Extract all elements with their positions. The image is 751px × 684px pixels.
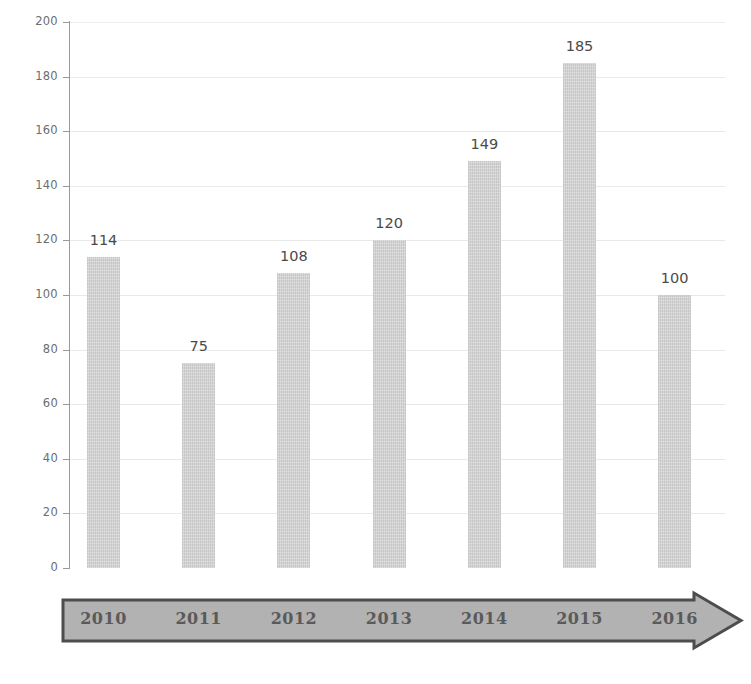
- y-axis-tick-label: 80: [22, 344, 58, 355]
- y-axis-tick-label-wrap: 60: [18, 398, 58, 410]
- y-axis-tick-label-wrap: 120: [18, 234, 58, 246]
- y-axis-tick-label-wrap: 200: [18, 16, 58, 28]
- gridline: [70, 22, 725, 23]
- bar-chart: 020406080100120140160180200 114751081201…: [0, 0, 751, 684]
- y-axis-tick: [63, 513, 70, 514]
- x-axis-arrow: 2010201120122013201420152016: [60, 590, 744, 652]
- y-axis-tick-label: 0: [22, 562, 58, 573]
- y-axis-tick-label-wrap: 0: [18, 562, 58, 574]
- y-axis-tick-label-wrap: 20: [18, 507, 58, 519]
- y-axis-tick: [63, 77, 70, 78]
- x-axis-category-label: 2012: [259, 611, 329, 627]
- bar-value-label: 185: [550, 39, 610, 54]
- bar: [658, 295, 691, 568]
- x-axis-category-label: 2014: [449, 611, 519, 627]
- y-axis-tick: [63, 240, 70, 241]
- y-axis-tick-label: 40: [22, 453, 58, 464]
- y-axis-tick-label-wrap: 160: [18, 125, 58, 137]
- y-axis-tick-label: 20: [22, 507, 58, 518]
- y-axis-tick-label-wrap: 100: [18, 289, 58, 301]
- y-axis-tick-label-wrap: 180: [18, 71, 58, 83]
- x-axis-category-label: 2011: [164, 611, 234, 627]
- bar-value-label: 114: [74, 233, 134, 248]
- x-axis-category-label: 2016: [640, 611, 710, 627]
- y-axis-tick: [63, 568, 70, 569]
- bar: [182, 363, 215, 568]
- y-axis-tick: [63, 350, 70, 351]
- x-axis-category-label: 2010: [69, 611, 139, 627]
- y-axis-tick: [63, 404, 70, 405]
- bar: [468, 161, 501, 568]
- bar-value-label: 100: [645, 271, 705, 286]
- bar-value-label: 149: [454, 137, 514, 152]
- bar: [87, 257, 120, 568]
- y-axis-tick-label-wrap: 40: [18, 453, 58, 465]
- y-axis-tick-label: 60: [22, 398, 58, 409]
- y-axis-tick-label: 120: [22, 234, 58, 245]
- x-axis-category-label: 2013: [354, 611, 424, 627]
- bar-value-label: 75: [169, 339, 229, 354]
- y-axis-tick-label: 140: [22, 180, 58, 191]
- bar: [277, 273, 310, 568]
- bar-value-label: 120: [359, 216, 419, 231]
- bar: [373, 240, 406, 568]
- y-axis-tick-label-wrap: 140: [18, 180, 58, 192]
- y-axis-tick-label-wrap: 80: [18, 344, 58, 356]
- y-axis-tick-label: 200: [22, 16, 58, 27]
- y-axis-tick: [63, 22, 70, 23]
- y-axis-tick: [63, 295, 70, 296]
- y-axis-tick: [63, 186, 70, 187]
- gridline: [70, 131, 725, 132]
- gridline: [70, 186, 725, 187]
- y-axis-tick-label: 100: [22, 289, 58, 300]
- y-axis-tick-label: 160: [22, 125, 58, 136]
- bar: [563, 63, 596, 568]
- gridline: [70, 77, 725, 78]
- x-axis-category-label: 2015: [545, 611, 615, 627]
- bar-value-label: 108: [264, 249, 324, 264]
- y-axis-tick: [63, 459, 70, 460]
- y-axis-tick: [63, 131, 70, 132]
- y-axis-tick-label: 180: [22, 71, 58, 82]
